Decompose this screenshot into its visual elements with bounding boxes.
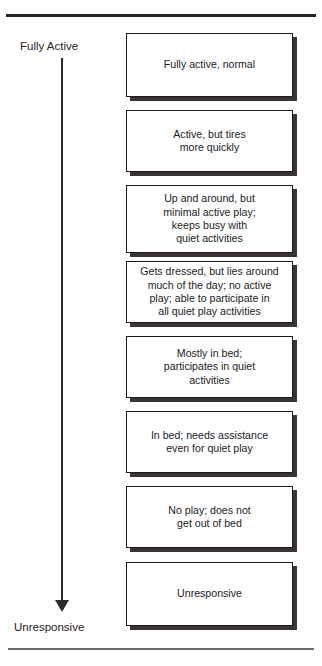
activity-level-box: In bed; needs assistance even for quiet … xyxy=(126,411,293,473)
activity-level-text: Up and around, but minimal active play; … xyxy=(158,192,260,246)
activity-level-text: Mostly in bed; participates in quiet act… xyxy=(159,347,260,387)
activity-level-text: Unresponsive xyxy=(172,587,247,600)
activity-level-box: No play; does not get out of bed xyxy=(126,486,293,548)
down-arrow-icon xyxy=(55,600,69,612)
activity-level-text: Fully active, normal xyxy=(159,58,260,71)
activity-level-box: Mostly in bed; participates in quiet act… xyxy=(126,336,293,398)
activity-level-text: No play; does not get out of bed xyxy=(163,504,255,531)
activity-level-text: Active, but tires more quickly xyxy=(168,128,250,155)
figure-canvas: Fully Active Unresponsive Fully active, … xyxy=(0,0,322,666)
axis-label-fully-active: Fully Active xyxy=(20,40,78,53)
activity-level-box-column: Fully active, normal Active, but tires m… xyxy=(126,0,301,666)
bottom-rule-divider xyxy=(8,648,314,650)
activity-level-box: Active, but tires more quickly xyxy=(126,110,293,172)
activity-scale-axis-line xyxy=(61,58,63,603)
activity-level-box: Gets dressed, but lies around much of th… xyxy=(126,261,293,323)
activity-level-box: Fully active, normal xyxy=(126,33,293,97)
activity-level-text: In bed; needs assistance even for quiet … xyxy=(146,429,273,456)
activity-level-text: Gets dressed, but lies around much of th… xyxy=(135,265,283,319)
activity-level-box: Up and around, but minimal active play; … xyxy=(126,185,293,253)
axis-label-unresponsive: Unresponsive xyxy=(14,621,84,634)
activity-level-box: Unresponsive xyxy=(126,562,293,626)
